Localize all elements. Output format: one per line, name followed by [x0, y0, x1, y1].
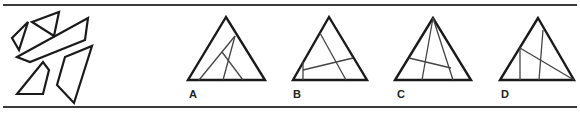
option-c[interactable]: [395, 18, 471, 80]
puzzle-figure: [0, 0, 580, 115]
division-line: [433, 18, 453, 80]
shape-piece-2: [32, 12, 59, 36]
option-label-d[interactable]: D: [501, 89, 509, 100]
division-line: [409, 58, 451, 68]
division-line: [222, 52, 243, 80]
triangle-outline: [188, 17, 265, 80]
triangle-outline: [293, 17, 367, 80]
shape-piece-4: [17, 62, 49, 94]
shape-pieces: [12, 12, 92, 103]
triangle-outline: [500, 18, 574, 80]
option-label-c[interactable]: C: [397, 89, 405, 100]
shape-piece-1: [12, 22, 28, 50]
division-line: [539, 30, 543, 80]
option-label-b[interactable]: B: [293, 89, 301, 100]
answer-options: [188, 17, 574, 80]
option-label-a[interactable]: A: [189, 89, 197, 100]
option-b[interactable]: [293, 17, 367, 80]
shape-piece-5: [57, 46, 92, 103]
option-a[interactable]: [188, 17, 265, 80]
division-line: [303, 58, 353, 70]
option-d[interactable]: [500, 18, 574, 80]
triangle-outline: [395, 18, 471, 80]
